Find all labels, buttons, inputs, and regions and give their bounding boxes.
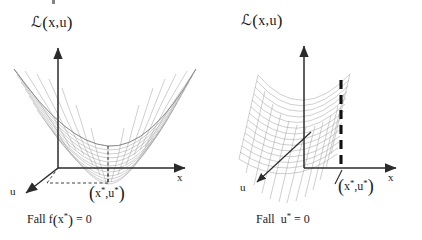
left-vertical-axis-label: ℒ(x,u) <box>31 14 73 31</box>
right-x-axis-label: x <box>388 172 394 183</box>
right-u-axis-label: u <box>240 182 246 193</box>
script-l-glyph: ℒ <box>241 11 252 29</box>
panel-right-parabolic-cylinder: ℒ(x,u) x u (x*,u*) Fall u* = 0 <box>211 0 422 240</box>
left-u-axis <box>26 168 58 193</box>
caption-word: Fall <box>27 212 46 226</box>
right-mesh-crosssections <box>239 74 350 174</box>
two-panel-lagrangian-figure: ℒ(x,u) x u (x*,u*) Fall f(x*) = 0 <box>0 0 422 240</box>
left-plot-graphic <box>0 0 211 240</box>
left-mesh-generatrices <box>14 69 196 184</box>
right-vertical-axis-label: ℒ(x,u) <box>241 12 283 29</box>
left-u-axis-label: u <box>10 186 16 197</box>
left-point-label: (x*,u*) <box>89 184 125 202</box>
script-l-glyph: ℒ <box>31 13 42 31</box>
paren-close: ) <box>368 176 374 196</box>
left-mesh-rim <box>14 69 196 146</box>
right-mesh-longitudinal <box>239 74 350 203</box>
left-x-axis-label: x <box>177 172 183 183</box>
equals: = <box>73 212 86 226</box>
caption-value: 0 <box>86 212 92 226</box>
paren-close: ) <box>67 13 73 32</box>
caption-word: Fall <box>256 212 275 226</box>
var-u: u <box>59 15 66 30</box>
right-plot-graphic <box>211 0 422 240</box>
right-point-label: (x*,u*) <box>338 177 374 195</box>
right-caption: Fall u* = 0 <box>256 212 310 225</box>
var-x: x <box>258 13 265 28</box>
equals: = <box>291 212 304 226</box>
paren-close: ) <box>277 11 283 30</box>
var-u: u <box>269 13 276 28</box>
left-mesh-rings <box>14 69 196 184</box>
paren-close: ) <box>119 183 125 203</box>
panel-left-paraboloid: ℒ(x,u) x u (x*,u*) Fall f(x*) = 0 <box>0 0 211 240</box>
left-caption: Fall f(x*) = 0 <box>27 212 92 228</box>
var-x: x <box>48 15 55 30</box>
caption-value: 0 <box>304 212 310 226</box>
